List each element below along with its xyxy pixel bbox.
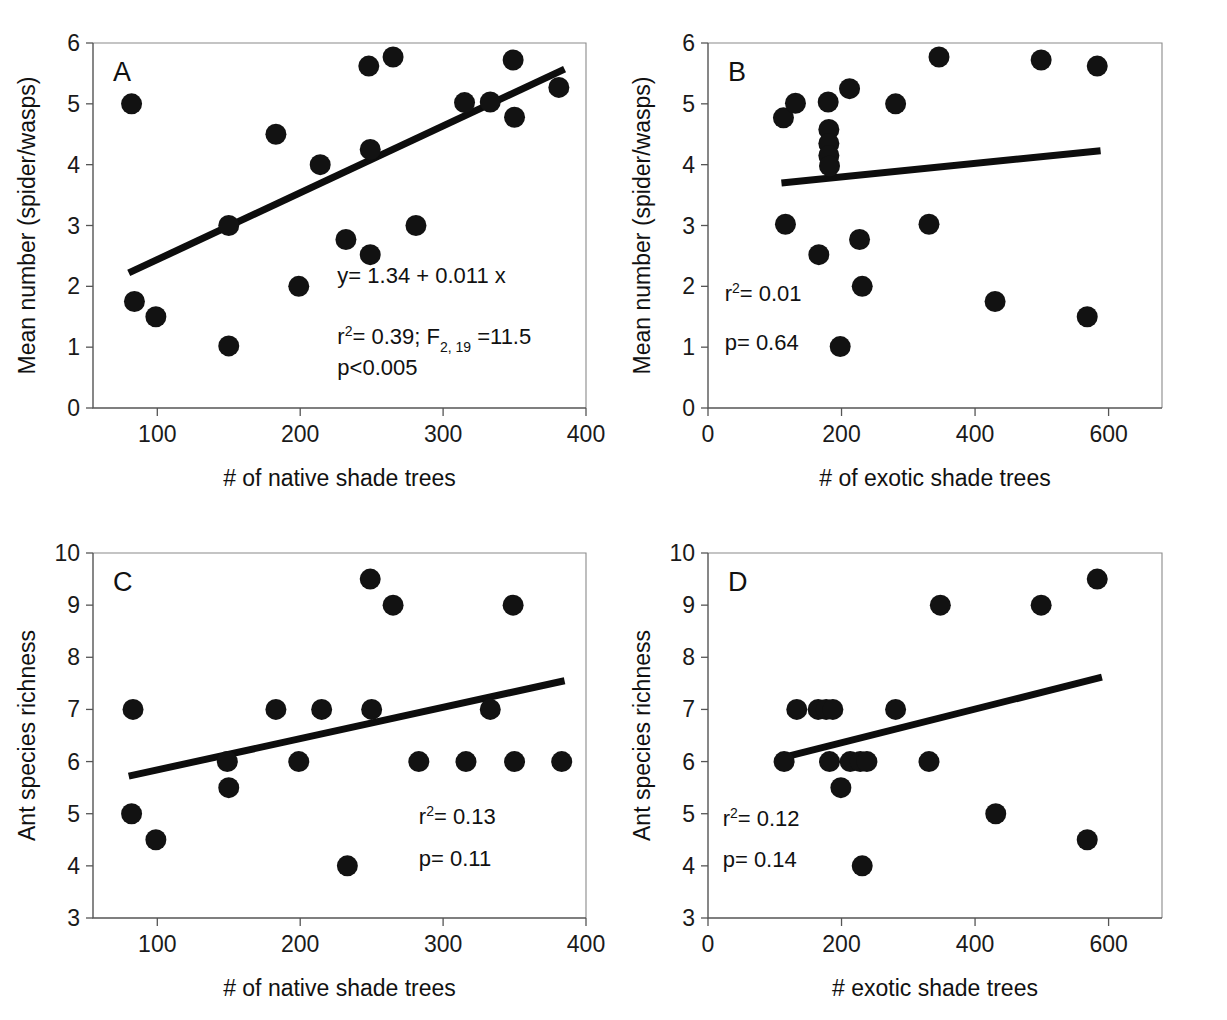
y-tick-label: 5 bbox=[67, 801, 80, 827]
data-point bbox=[145, 306, 166, 327]
x-tick-label: 400 bbox=[956, 421, 994, 447]
panel-c-points bbox=[121, 569, 572, 877]
r-value: = 0.01 bbox=[740, 281, 802, 306]
panel-d-y-axis: 345678910 bbox=[669, 540, 708, 931]
x-tick-label: 300 bbox=[424, 931, 462, 957]
y-tick-label: 9 bbox=[67, 592, 80, 618]
x-tick-label: 400 bbox=[567, 931, 605, 957]
figure-container: 0123456100200300400# of native shade tre… bbox=[0, 0, 1227, 1020]
data-point bbox=[218, 215, 239, 236]
y-tick-label: 10 bbox=[54, 540, 80, 566]
y-tick-label: 1 bbox=[682, 334, 695, 360]
data-point bbox=[1087, 56, 1108, 77]
data-point bbox=[929, 46, 950, 67]
data-point bbox=[480, 92, 501, 113]
f-subscript: 2, 19 bbox=[440, 339, 471, 355]
data-point bbox=[383, 595, 404, 616]
annotation-r-squared: r2= 0.12 bbox=[723, 805, 800, 831]
annotation-r-squared: r2= 0.01 bbox=[725, 280, 802, 306]
panel-a-annotations: y= 1.34 + 0.011 xr2= 0.39; F2, 19 =11.5p… bbox=[337, 263, 531, 380]
y-tick-label: 3 bbox=[682, 905, 695, 931]
r-symbol: r bbox=[337, 324, 344, 349]
data-point bbox=[822, 699, 843, 720]
data-point bbox=[985, 803, 1006, 824]
panel-c-regression-line bbox=[129, 681, 565, 776]
panel-a-y-axis: 0123456 bbox=[67, 30, 93, 421]
y-tick-label: 9 bbox=[682, 592, 695, 618]
y-tick-label: 6 bbox=[682, 749, 695, 775]
y-tick-label: 6 bbox=[67, 749, 80, 775]
r-value: = 0.39; F bbox=[352, 324, 439, 349]
panel-c-annotations: r2= 0.13p= 0.11 bbox=[419, 803, 496, 871]
data-point bbox=[408, 751, 429, 772]
y-tick-label: 5 bbox=[682, 801, 695, 827]
panel-a-ylabel: Mean number (spider/wasps) bbox=[14, 77, 40, 375]
data-point bbox=[361, 699, 382, 720]
data-point bbox=[145, 829, 166, 850]
data-point bbox=[454, 92, 475, 113]
y-tick-label: 4 bbox=[682, 853, 695, 879]
data-point bbox=[918, 751, 939, 772]
panel-c-y-axis: 345678910 bbox=[54, 540, 93, 931]
annotation-p-value: p= 0.11 bbox=[419, 846, 491, 871]
y-tick-label: 7 bbox=[67, 696, 80, 722]
panel-d-x-axis: 0200400600 bbox=[702, 918, 1128, 957]
panel-c-x-axis: 100200300400 bbox=[138, 918, 605, 957]
panel-b-letter: B bbox=[728, 57, 746, 87]
data-point bbox=[123, 699, 144, 720]
panel-b-ylabel: Mean number (spider/wasps) bbox=[629, 77, 655, 375]
x-tick-label: 0 bbox=[702, 931, 715, 957]
data-point bbox=[360, 569, 381, 590]
x-tick-label: 200 bbox=[281, 931, 319, 957]
y-tick-label: 6 bbox=[682, 30, 695, 56]
data-point bbox=[885, 699, 906, 720]
panel-b: 01234560200400600# of exotic shade trees… bbox=[613, 0, 1227, 510]
data-point bbox=[849, 229, 870, 250]
x-tick-label: 200 bbox=[281, 421, 319, 447]
panel-d: 3456789100200400600# exotic shade treesA… bbox=[613, 510, 1227, 1020]
panel-a: 0123456100200300400# of native shade tre… bbox=[0, 0, 614, 510]
panel-b-xlabel: # of exotic shade trees bbox=[819, 465, 1050, 491]
data-point bbox=[265, 699, 286, 720]
data-point bbox=[405, 215, 426, 236]
r-symbol: r bbox=[723, 806, 730, 831]
data-point bbox=[121, 803, 142, 824]
data-point bbox=[830, 336, 851, 357]
data-point bbox=[503, 595, 524, 616]
y-tick-label: 7 bbox=[682, 696, 695, 722]
r-superscript: 2 bbox=[426, 803, 434, 819]
r-value: = 0.12 bbox=[738, 806, 800, 831]
y-tick-label: 2 bbox=[682, 273, 695, 299]
data-point bbox=[288, 751, 309, 772]
data-point bbox=[358, 56, 379, 77]
y-tick-label: 0 bbox=[67, 395, 80, 421]
panel-d-xlabel: # exotic shade trees bbox=[832, 975, 1038, 1001]
y-tick-label: 8 bbox=[67, 644, 80, 670]
y-tick-label: 4 bbox=[67, 853, 80, 879]
annotation-p-value: p= 0.14 bbox=[723, 847, 797, 872]
panel-c-xlabel: # of native shade trees bbox=[223, 975, 456, 1001]
data-point bbox=[504, 107, 525, 128]
data-point bbox=[830, 777, 851, 798]
data-point bbox=[775, 214, 796, 235]
data-point bbox=[121, 93, 142, 114]
y-tick-label: 8 bbox=[682, 644, 695, 670]
x-tick-label: 200 bbox=[822, 931, 860, 957]
x-tick-label: 0 bbox=[702, 421, 715, 447]
panel-b-x-axis: 0200400600 bbox=[702, 408, 1128, 447]
x-tick-label: 600 bbox=[1089, 931, 1127, 957]
panel-b-y-axis: 0123456 bbox=[682, 30, 708, 421]
y-tick-label: 3 bbox=[67, 213, 80, 239]
y-tick-label: 10 bbox=[669, 540, 695, 566]
y-tick-label: 6 bbox=[67, 30, 80, 56]
annotation-p-value: p<0.005 bbox=[337, 355, 417, 380]
data-point bbox=[383, 46, 404, 67]
r-symbol: r bbox=[725, 281, 732, 306]
panel-c-letter: C bbox=[113, 567, 133, 597]
data-point bbox=[218, 335, 239, 356]
panel-d-points bbox=[774, 569, 1108, 877]
data-point bbox=[337, 855, 358, 876]
data-point bbox=[852, 276, 873, 297]
data-point bbox=[852, 855, 873, 876]
r-superscript: 2 bbox=[730, 805, 738, 821]
